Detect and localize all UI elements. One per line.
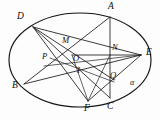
point-label-q: Q [110,71,116,80]
point-label-e: E [146,48,152,58]
segment-a-b [24,17,110,84]
point-label-i: I [77,66,80,75]
point-label-b: B [12,81,18,91]
ellipse-alpha [9,13,151,107]
point-label-o: O [73,54,79,63]
geometry-canvas [0,0,160,120]
segment-f-n [88,55,110,101]
point-label-n: N [112,43,118,52]
point-label-a: A [108,2,114,12]
point-label-d: D [17,12,24,22]
point-label-c: C [107,102,113,112]
conic-label-alpha: α [130,78,134,88]
point-label-p: P [42,52,47,61]
segment-d-c [33,27,110,98]
segment-d-e [33,27,141,55]
point-label-f: F [84,104,90,114]
geometry-figure: A D E B F C M N O P I Q α [0,0,160,120]
point-label-m: M [62,36,69,45]
